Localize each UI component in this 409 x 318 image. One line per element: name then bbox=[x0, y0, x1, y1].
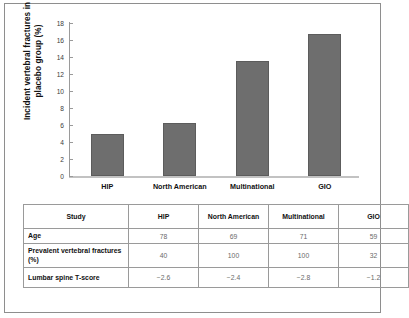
x-category-label: North American bbox=[153, 182, 207, 191]
y-tick-mark bbox=[69, 176, 73, 177]
y-tick-label: 16 bbox=[57, 37, 64, 44]
table-row: Prevalent vertebral fractures (%)4010010… bbox=[24, 244, 409, 268]
table-cell: −1.2 bbox=[339, 268, 409, 288]
y-tick-mark bbox=[69, 125, 73, 126]
column-header-hip: HIP bbox=[129, 205, 199, 229]
table-row: Lumbar spine T-score−2.6−2.4−2.8−1.2 bbox=[24, 268, 409, 288]
y-tick-label: 8 bbox=[60, 105, 64, 112]
x-category-label: GIO bbox=[318, 182, 331, 191]
bar-multinational bbox=[236, 61, 269, 176]
row-header: Prevalent vertebral fractures (%) bbox=[24, 244, 129, 268]
y-tick-mark bbox=[69, 108, 73, 109]
table-cell: 100 bbox=[199, 244, 269, 268]
y-tick-mark bbox=[69, 40, 73, 41]
y-tick-mark bbox=[69, 74, 73, 75]
y-tick-mark bbox=[69, 159, 73, 160]
y-tick-label: 4 bbox=[60, 139, 64, 146]
column-header-gio: GIO bbox=[339, 205, 409, 229]
y-tick-label: 12 bbox=[57, 71, 64, 78]
table-cell: 40 bbox=[129, 244, 199, 268]
column-header-multinational: Multinational bbox=[269, 205, 339, 229]
y-axis-title: Incident vertebral fractures in placebo … bbox=[22, 0, 44, 136]
row-header: Lumbar spine T-score bbox=[24, 268, 129, 288]
table-cell: 32 bbox=[339, 244, 409, 268]
x-category-label: HIP bbox=[101, 182, 113, 191]
table-row: Age78697159 bbox=[24, 229, 409, 244]
study-characteristics-table: Study HIP North American Multinational G… bbox=[23, 204, 363, 288]
table-cell: 100 bbox=[269, 244, 339, 268]
y-tick-label: 18 bbox=[57, 20, 64, 27]
bar-north-american bbox=[163, 123, 196, 176]
row-header: Age bbox=[24, 229, 129, 244]
table-cell: 78 bbox=[129, 229, 199, 244]
y-tick-label: 14 bbox=[57, 54, 64, 61]
y-tick-label: 6 bbox=[60, 122, 64, 129]
column-header-study: Study bbox=[24, 205, 129, 229]
y-tick-mark bbox=[69, 57, 73, 58]
figure-panel: Incident vertebral fractures in placebo … bbox=[4, 3, 381, 313]
y-tick-mark bbox=[69, 91, 73, 92]
x-axis-line bbox=[69, 176, 359, 178]
column-header-north-american: North American bbox=[199, 205, 269, 229]
y-tick-mark bbox=[69, 142, 73, 143]
plot-area: 024681012141618 HIPNorth AmericanMultina… bbox=[69, 22, 361, 177]
bar-hip bbox=[91, 134, 124, 176]
bar-chart: Incident vertebral fractures in placebo … bbox=[5, 4, 382, 196]
y-tick-label: 2 bbox=[60, 156, 64, 163]
y-tick-label: 0 bbox=[60, 173, 64, 180]
table-cell: 69 bbox=[199, 229, 269, 244]
table-cell: −2.4 bbox=[199, 268, 269, 288]
bar-gio bbox=[308, 34, 341, 176]
table-cell: 71 bbox=[269, 229, 339, 244]
y-tick-label: 10 bbox=[57, 88, 64, 95]
table-cell: −2.8 bbox=[269, 268, 339, 288]
table-header-row: Study HIP North American Multinational G… bbox=[24, 205, 409, 229]
y-axis-line bbox=[69, 22, 70, 177]
table-cell: 59 bbox=[339, 229, 409, 244]
y-tick-mark bbox=[69, 23, 73, 24]
x-category-label: Multinational bbox=[230, 182, 274, 191]
table-cell: −2.6 bbox=[129, 268, 199, 288]
